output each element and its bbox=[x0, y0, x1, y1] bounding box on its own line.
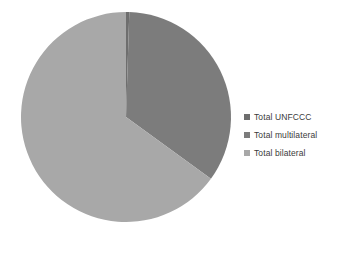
pie-slices bbox=[21, 12, 231, 222]
legend-item-total-bilateral[interactable]: Total bilateral bbox=[244, 144, 340, 161]
legend-item-label: Total multilateral bbox=[254, 130, 317, 140]
pie-chart: Total UNFCCC Total multilateral Total bi… bbox=[0, 0, 342, 255]
legend-item-total-unfccc[interactable]: Total UNFCCC bbox=[244, 108, 340, 125]
legend-item-label: Total UNFCCC bbox=[254, 112, 311, 122]
chart-legend: Total UNFCCC Total multilateral Total bi… bbox=[244, 108, 340, 162]
legend-swatch-icon bbox=[244, 150, 250, 156]
legend-swatch-icon bbox=[244, 132, 250, 138]
legend-item-label: Total bilateral bbox=[254, 148, 306, 158]
legend-swatch-icon bbox=[244, 114, 250, 120]
legend-item-total-multilateral[interactable]: Total multilateral bbox=[244, 126, 340, 143]
